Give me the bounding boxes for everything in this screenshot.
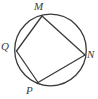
vertex-label-p: P	[26, 85, 33, 96]
vertex-label-m: M	[34, 1, 43, 12]
segment-NM	[42, 16, 85, 55]
segment-PN	[38, 55, 85, 83]
figure-canvas	[0, 0, 98, 99]
vertex-label-n: N	[87, 49, 94, 60]
vertex-label-q: Q	[1, 41, 9, 52]
geometry-figure: M Q P N	[0, 0, 98, 99]
